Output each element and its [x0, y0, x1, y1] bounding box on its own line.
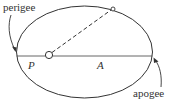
apogee-arrow: [155, 60, 161, 87]
apogee-label: apogee: [133, 87, 164, 99]
orbit-ellipse: [17, 6, 153, 98]
focus-earth-icon: [45, 51, 52, 58]
apogee-arrowhead-icon: [154, 58, 159, 64]
apogee-distance-label: A: [96, 59, 104, 71]
perigee-arrow: [9, 15, 15, 50]
perigee-label: perigee: [3, 1, 35, 13]
satellite-icon: [111, 7, 115, 11]
perigee-distance-label: P: [27, 59, 35, 71]
orbit-diagram: perigee apogee P A: [0, 0, 173, 105]
radius-dashed-line: [52, 10, 111, 53]
